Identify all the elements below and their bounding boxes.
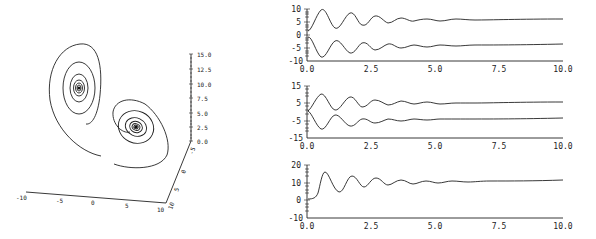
x-tick-label: 0.0	[300, 65, 315, 74]
y-tick-label: 10	[166, 201, 175, 211]
x-tick-label: 5.0	[428, 222, 443, 231]
z-tick-label: 12.5	[197, 66, 212, 73]
x-tick-label: -10	[16, 194, 27, 201]
y-tick-label: 5	[172, 186, 180, 192]
x-tick-label: 7.5	[492, 65, 507, 74]
x-axis	[26, 192, 166, 203]
time-series-plot-2: 15 5 -5 -15 0.0 2.5 5.0 7.5 10.0	[289, 82, 573, 151]
x-tick-label: 5.0	[428, 65, 443, 74]
z-tick-label: 2.5	[197, 124, 208, 131]
x-tick-label: 7.5	[492, 142, 507, 151]
x-tick-label: 0.0	[300, 142, 315, 151]
z-tick-label: 0.0	[197, 138, 208, 145]
z-tick-label: 7.5	[197, 95, 208, 102]
time-series-plot-3: 20 10 0 -10 0.0 2.5 5.0 7.5 10.0	[289, 161, 573, 231]
series-upper	[308, 94, 563, 111]
x-tick-label: 2.5	[364, 65, 379, 74]
y-tick-label: 0	[296, 196, 301, 205]
x-tick-label: 5	[125, 202, 129, 209]
y-tick-label: -5	[291, 117, 301, 126]
z-tick-label: 5.0	[197, 110, 208, 117]
y-tick-label: -5	[187, 146, 196, 156]
x-tick-label: 2.5	[364, 142, 379, 151]
x-tick-label: 7.5	[492, 222, 507, 231]
x-tick-label: 10.0	[553, 142, 572, 151]
series-upper	[308, 9, 563, 31]
x-tick-label: 10.0	[553, 65, 572, 74]
y-tick-label: 0	[296, 31, 301, 40]
series-lower	[308, 111, 563, 129]
y-tick-label: -5	[291, 44, 301, 53]
phase-portrait-3d: 15.0 12.5 10.0 7.5 5.0 2.5 0.0 -5 0 5 10…	[16, 44, 212, 213]
time-series-plot-1: 10 5 0 -5 -10 0.0 2.5 5.0 7.5 10.0	[289, 5, 573, 74]
y-tick-label: 15	[291, 82, 301, 91]
y-tick-label: 5	[296, 18, 301, 27]
y-tick-label: 10	[291, 179, 301, 188]
x-tick-label: 0.0	[300, 222, 315, 231]
x-tick-label: 2.5	[364, 222, 379, 231]
series-z	[308, 172, 563, 199]
left-spiral	[49, 44, 101, 156]
x-tick-label: 10.0	[553, 222, 572, 231]
x-tick-label: 10	[157, 206, 165, 213]
y-tick-label: 5	[296, 99, 301, 108]
y-tick-label: 0	[179, 168, 187, 174]
right-spiral	[113, 100, 168, 168]
y-tick-label: 20	[291, 161, 301, 170]
x-tick-label: 5.0	[428, 142, 443, 151]
z-tick-label: 10.0	[197, 81, 212, 88]
series-lower	[308, 37, 563, 57]
y-tick-label: 10	[291, 5, 301, 14]
figure: 15.0 12.5 10.0 7.5 5.0 2.5 0.0 -5 0 5 10…	[0, 0, 596, 239]
x-tick-label: -5	[56, 197, 64, 204]
x-tick-label: 0	[91, 199, 95, 206]
z-tick-label: 15.0	[197, 51, 212, 58]
